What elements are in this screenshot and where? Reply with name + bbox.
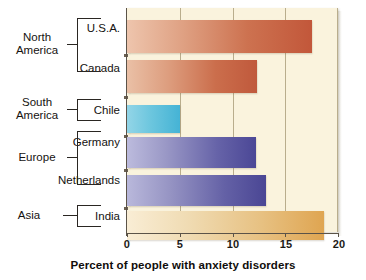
x-tick-label-15: 15 bbox=[280, 238, 293, 250]
country-label-germany: Germany bbox=[0, 136, 120, 148]
region-label-europe: Europe bbox=[2, 151, 72, 164]
region-label-south-america: South America bbox=[2, 96, 72, 122]
x-axis-title: Percent of people with anxiety disorders bbox=[0, 259, 366, 271]
bracket-north-america bbox=[77, 18, 101, 72]
x-tick-label-20: 20 bbox=[333, 238, 346, 250]
region-line-2: America bbox=[16, 44, 58, 56]
bracket-europe bbox=[77, 131, 101, 185]
bar-usa[interactable] bbox=[127, 20, 312, 53]
x-tick-15 bbox=[285, 233, 286, 237]
bracket-stem-asia bbox=[63, 215, 78, 216]
region-line-1: Europe bbox=[18, 151, 55, 163]
region-label-asia: Asia bbox=[0, 209, 64, 222]
x-tick-10 bbox=[233, 233, 234, 237]
bar-canada[interactable] bbox=[127, 60, 257, 93]
bar-netherlands[interactable] bbox=[127, 175, 266, 206]
bar-chile[interactable] bbox=[127, 105, 180, 133]
y-axis-line bbox=[126, 8, 127, 236]
bar-india[interactable] bbox=[127, 211, 324, 240]
plot-area bbox=[127, 8, 338, 232]
x-tick-0 bbox=[127, 233, 128, 237]
gridline-20 bbox=[337, 8, 338, 232]
region-line-1: South bbox=[22, 96, 52, 108]
region-label-north-america: North America bbox=[2, 31, 72, 57]
region-line-1: Asia bbox=[18, 209, 40, 221]
anxiety-disorders-bar-chart: 0 5 10 15 20 U.S.A. Canada Chile Germany… bbox=[0, 0, 366, 280]
bracket-asia bbox=[77, 205, 101, 227]
region-line-2: America bbox=[16, 109, 58, 121]
country-label-canada: Canada bbox=[0, 62, 120, 74]
x-tick-label-5: 5 bbox=[177, 238, 183, 250]
bar-germany[interactable] bbox=[127, 137, 256, 168]
country-label-netherlands: Netherlands bbox=[0, 174, 120, 186]
bracket-south-america bbox=[77, 99, 101, 121]
x-tick-label-10: 10 bbox=[227, 238, 240, 250]
x-tick-20 bbox=[338, 233, 339, 237]
x-tick-5 bbox=[180, 233, 181, 237]
region-line-1: North bbox=[23, 31, 51, 43]
x-tick-label-0: 0 bbox=[124, 238, 130, 250]
